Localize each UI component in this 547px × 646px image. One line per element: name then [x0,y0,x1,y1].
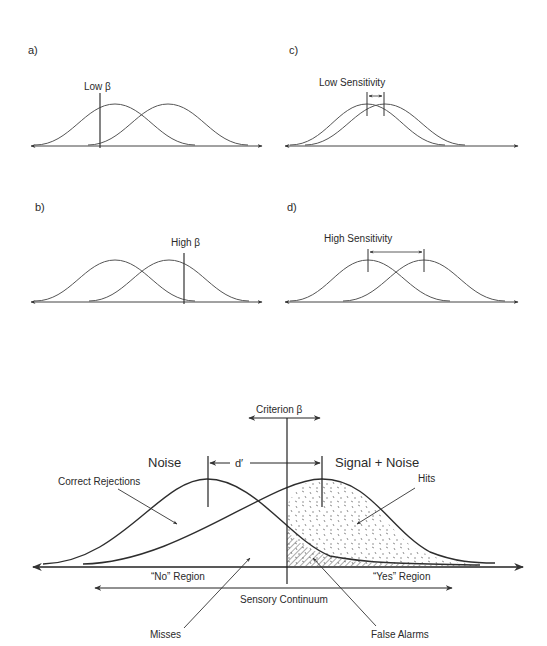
false-alarms-pointer [313,558,376,626]
yes-region-label: “Yes” Region [373,571,430,582]
panel-a-noise-curve [35,104,195,145]
panel-b-annotation: High β [171,237,200,248]
panel-c-signal-curve [305,104,465,145]
panel-b-signal-curve [89,260,249,301]
panel-d-label: d) [287,201,297,213]
panel-a-signal-curve [88,104,248,145]
sdt-diagram: a) Low β c) Low Sensitivity b) High β d)… [0,0,547,646]
panel-b-label: b) [35,201,45,213]
false-alarms-label: False Alarms [371,629,429,640]
misses-label: Misses [150,629,181,640]
panel-c: c) Low Sensitivity [285,44,518,146]
correct-rejections-label: Correct Rejections [58,476,140,487]
main-diagram: Criterion β d′ Noise Signal + Noise Corr… [33,404,523,640]
no-region-label: “No” Region [151,571,205,582]
signal-noise-title: Signal + Noise [335,455,419,470]
misses-pointer [184,558,250,628]
panel-d: d) High Sensitivity [285,201,518,302]
hits-label: Hits [418,473,435,484]
sensory-continuum-label: Sensory Continuum [240,594,328,605]
panel-d-noise-curve [290,260,450,301]
panel-c-annotation: Low Sensitivity [319,77,385,88]
dprime-label: d′ [235,457,243,469]
panel-b-noise-curve [35,260,195,301]
panel-a-annotation: Low β [84,81,111,92]
panel-a-label: a) [28,44,38,56]
panel-d-annotation: High Sensitivity [324,233,392,244]
criterion-label: Criterion β [256,404,303,415]
panel-c-label: c) [289,44,298,56]
panel-b: b) High β [31,201,262,304]
noise-title: Noise [148,455,181,470]
panel-a: a) Low β [28,44,262,148]
